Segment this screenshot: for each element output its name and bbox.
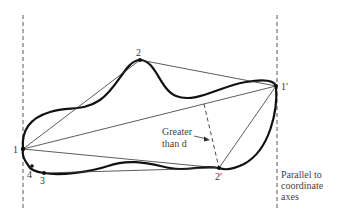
point-2 [138, 58, 142, 62]
hull-edge-3-to-2prime [44, 168, 219, 173]
distance-dashed-line [204, 104, 219, 168]
distance-label-line1: Greater [162, 126, 193, 137]
label-point-2: 2 [136, 47, 141, 58]
label-point-2prime: 2′ [215, 171, 222, 182]
label-point-1prime: 1′ [281, 81, 288, 92]
distance-label-line2: than d [162, 138, 187, 149]
label-point-1: 1 [13, 144, 18, 155]
label-point-4: 4 [27, 169, 32, 180]
point-4 [30, 164, 34, 168]
axes-note-line3: axes [281, 191, 299, 202]
arrow-head-icon [204, 137, 210, 142]
label-point-3: 3 [40, 175, 45, 186]
closed-curve [23, 60, 277, 174]
chord-1-to-2prime [23, 149, 219, 168]
point-2prime [217, 166, 221, 170]
axes-note-line1: Parallel to [281, 169, 322, 180]
point-1prime [274, 84, 278, 88]
axes-note-line2: coordinate [281, 180, 324, 191]
chord-1-to-2 [23, 60, 140, 149]
point-1 [21, 147, 25, 151]
convex-hull-diagram: 1 2 3 4 1′ 2′ Greater than d Parallel to… [0, 0, 340, 215]
hull-edge-2-to-1prime [140, 60, 276, 86]
chord-1-to-1prime [23, 86, 276, 149]
